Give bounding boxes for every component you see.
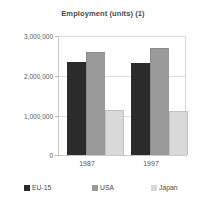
legend-swatch-icon-japan bbox=[151, 185, 157, 191]
bars-layer bbox=[59, 36, 186, 155]
chart-legend: EU-15 USA Japan bbox=[0, 184, 206, 198]
legend-item-eu-15[interactable]: EU-15 bbox=[24, 184, 51, 191]
legend-label-eu-15: EU-15 bbox=[32, 184, 51, 191]
legend-label-japan: Japan bbox=[159, 184, 178, 191]
legend-item-japan[interactable]: Japan bbox=[151, 184, 178, 191]
bar-eu-15-1987[interactable] bbox=[67, 62, 86, 155]
ytick-label-1000000: 1,000,000 bbox=[3, 113, 53, 120]
legend-item-usa[interactable]: USA bbox=[92, 184, 114, 191]
xtick-label-1987: 1987 bbox=[62, 160, 112, 167]
employment-bar-chart: Employment (units) (1) 3,000,000 2,000,0… bbox=[0, 0, 206, 207]
ytick-label-0: 0 bbox=[3, 152, 53, 159]
bar-japan-1987[interactable] bbox=[105, 110, 124, 155]
legend-swatch-icon-usa bbox=[92, 185, 98, 191]
xtick-label-1997: 1997 bbox=[126, 160, 176, 167]
bar-usa-1997[interactable] bbox=[150, 48, 169, 155]
ytick-label-3000000: 3,000,000 bbox=[3, 33, 53, 40]
bar-eu-15-1997[interactable] bbox=[131, 63, 150, 155]
legend-swatch-icon-eu-15 bbox=[24, 185, 30, 191]
chart-title: Employment (units) (1) bbox=[0, 9, 206, 18]
bar-usa-1987[interactable] bbox=[86, 52, 105, 155]
legend-label-usa: USA bbox=[100, 184, 114, 191]
bar-japan-1997[interactable] bbox=[169, 111, 188, 155]
x-axis-line bbox=[58, 155, 187, 156]
ytick-label-2000000: 2,000,000 bbox=[3, 73, 53, 80]
